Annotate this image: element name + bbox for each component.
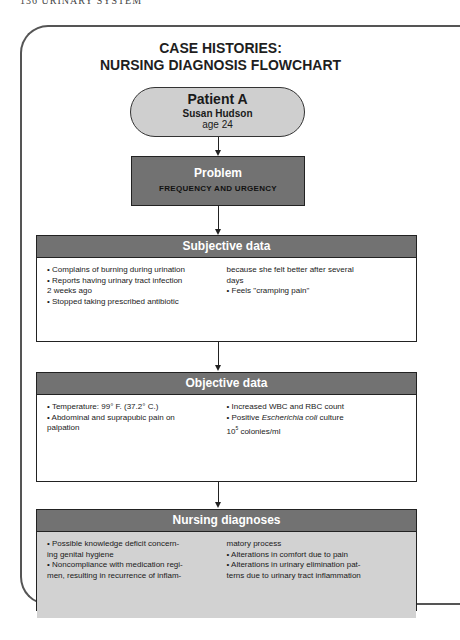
text-line: days [227, 276, 407, 287]
page-title: CASE HISTORIES: NURSING DIAGNOSIS FLOWCH… [0, 40, 441, 74]
text-line: terns due to urinary tract inflammation [227, 571, 407, 582]
patient-name: Susan Hudson [131, 108, 304, 119]
problem-heading: Problem [132, 166, 304, 180]
text-line: • Abdominal and suprapubic pain on [47, 413, 227, 424]
text-line: • Alterations in comfort due to pain [227, 550, 407, 561]
text-line: palpation [47, 423, 227, 434]
text-line: • Noncompliance with medication regi- [47, 560, 227, 571]
text-line: 105 colonies/ml [227, 423, 407, 437]
text-line: • Temperature: 99° F. (37.2° C.) [47, 402, 227, 413]
text-span: • Positive [227, 413, 262, 422]
text-span: colonies/ml [238, 427, 280, 436]
section-heading: Subjective data [37, 236, 416, 258]
problem-value: FREQUENCY AND URGENCY [132, 184, 304, 193]
text-line: • Reports having urinary tract infection [47, 276, 227, 287]
diagnoses-right-column: matory process • Alterations in comfort … [227, 539, 407, 618]
title-line-1: CASE HISTORIES: [0, 40, 441, 57]
diagnoses-left-column: • Possible knowledge deficit concern- in… [47, 539, 227, 618]
arrow-down-icon [215, 502, 221, 508]
section-heading: Nursing diagnoses [37, 510, 416, 532]
running-head: 136 URINARY SYSTEM [20, 0, 142, 6]
title-line-2: NURSING DIAGNOSIS FLOWCHART [0, 57, 441, 74]
objective-right-column: • Increased WBC and RBC count • Positive… [227, 402, 407, 437]
connector-line [218, 482, 219, 502]
text-line: • Feels "cramping pain" [227, 286, 407, 297]
problem-node: Problem FREQUENCY AND URGENCY [131, 156, 305, 206]
organism-name: Escherichia coli [262, 413, 318, 422]
patient-age: age 24 [131, 119, 304, 130]
text-line: 2 weeks ago [47, 286, 227, 297]
text-line: men, resulting in recurrence of inflam- [47, 571, 227, 582]
connector-line [218, 342, 219, 365]
subjective-right-column: because she felt better after several da… [227, 265, 407, 307]
text-line: • Stopped taking prescribed antibiotic [47, 297, 227, 308]
text-line: ing genital hygiene [47, 550, 227, 561]
arrow-down-icon [215, 365, 221, 371]
objective-left-column: • Temperature: 99° F. (37.2° C.) • Abdom… [47, 402, 227, 437]
subjective-left-column: • Complains of burning during urination … [47, 265, 227, 307]
section-heading: Objective data [37, 373, 416, 395]
subjective-data-section: Subjective data • Complains of burning d… [36, 235, 417, 342]
text-line: • Complains of burning during urination [47, 265, 227, 276]
text-line: • Possible knowledge deficit concern- [47, 539, 227, 550]
text-span: culture [317, 413, 343, 422]
patient-node: Patient A Susan Hudson age 24 [130, 87, 305, 137]
nursing-diagnoses-section: Nursing diagnoses • Possible knowledge d… [36, 509, 417, 611]
text-line: matory process [227, 539, 407, 550]
connector-line [218, 137, 219, 150]
text-line: because she felt better after several [227, 265, 407, 276]
connector-line [218, 206, 219, 229]
objective-data-section: Objective data • Temperature: 99° F. (37… [36, 372, 417, 482]
text-line: • Increased WBC and RBC count [227, 402, 407, 413]
patient-label: Patient A [131, 91, 304, 107]
text-line: • Positive Escherichia coli culture [227, 413, 407, 424]
text-line: • Alterations in urinary elimination pat… [227, 560, 407, 571]
